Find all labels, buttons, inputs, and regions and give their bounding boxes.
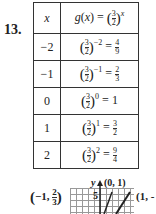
graph-fragment: (−1, 23) y (0, 1) 5 (1, -	[0, 178, 156, 214]
table-row: 1 (32)1 = 32	[34, 115, 139, 142]
point-label-left: (−1, 23)	[30, 188, 62, 207]
table-row: 2 (32)2 = 94	[34, 142, 139, 169]
point-label-top: (0, 1)	[104, 177, 126, 188]
y-axis-label: y	[91, 177, 95, 188]
point-label-right: (1, -	[136, 190, 154, 202]
header-gx: g(x) = (32)x	[61, 3, 139, 34]
problem-number: 13.	[4, 22, 22, 38]
table-row: −2 (32)−2 = 49	[34, 34, 139, 61]
graph-lines	[0, 178, 156, 214]
table-row: −1 (32)−1 = 23	[34, 61, 139, 88]
values-table: x g(x) = (32)x −2 (32)−2 = 49 −1 (32)−1 …	[33, 2, 139, 169]
header-x: x	[34, 3, 61, 34]
table-header: x g(x) = (32)x	[34, 3, 139, 34]
table-row: 0 (32)0 = 1	[34, 88, 139, 115]
tick-label: 5	[93, 190, 98, 201]
